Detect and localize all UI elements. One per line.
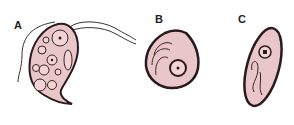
cell-b [146,31,199,88]
cell-a [18,22,136,104]
illustration [0,0,294,125]
cell-c [237,24,289,110]
